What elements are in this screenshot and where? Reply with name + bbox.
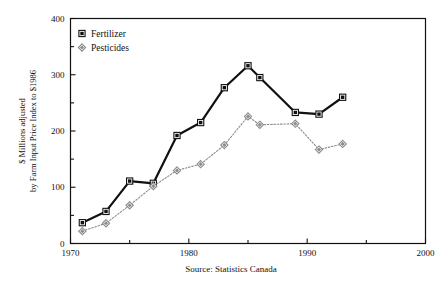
x-tick-label: 1970 [62, 248, 81, 258]
y-axis-tick-labels: 0100200300400 [51, 14, 65, 249]
y-axis-title-line1: $ Millions adjusted [17, 97, 27, 163]
y-tick-label: 0 [60, 239, 65, 249]
y-tick-label: 400 [51, 14, 65, 24]
line-chart: 1970198019902000 0100200300400 Fertilize… [0, 0, 442, 284]
y-axis-title-line2: by Farm Input Price Index to $1986 [28, 70, 38, 192]
y-tick-label: 200 [51, 126, 65, 136]
data-series-layer [79, 63, 347, 235]
x-axis-tick-labels: 1970198019902000 [62, 248, 436, 258]
chart-legend: FertilizerPesticides [78, 29, 129, 53]
series-fertilizer [79, 63, 346, 226]
legend-label-fertilizer: Fertilizer [91, 29, 127, 39]
series-line [82, 116, 342, 231]
y-tick-label: 300 [51, 70, 65, 80]
y-axis-title: $ Millions adjustedby Farm Input Price I… [17, 70, 38, 192]
series-line [82, 66, 342, 223]
legend-label-pesticides: Pesticides [91, 43, 129, 53]
x-tick-label: 2000 [417, 248, 436, 258]
y-tick-label: 100 [51, 182, 65, 192]
x-tick-label: 1990 [298, 248, 317, 258]
x-axis-ticks [71, 239, 426, 244]
x-tick-label: 1980 [180, 248, 199, 258]
chart-container: 1970198019902000 0100200300400 Fertilize… [0, 0, 442, 284]
series-pesticides [79, 113, 347, 235]
source-note-text: Source: Statistics Canada [185, 264, 276, 274]
source-note: Source: Statistics Canada [185, 264, 276, 274]
y-axis-ticks [71, 19, 76, 244]
